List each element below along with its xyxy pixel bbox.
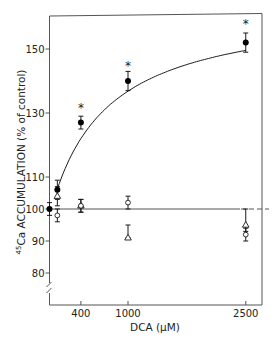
data-markers bbox=[47, 40, 250, 240]
y-tick-label: 100 bbox=[25, 204, 44, 215]
y-tick-label: 110 bbox=[25, 172, 44, 183]
fit-curve-path bbox=[57, 50, 245, 189]
y-axis-title: 45Ca ACCUMULATION (% of control) bbox=[15, 70, 27, 255]
significance-asterisks: *** bbox=[78, 17, 249, 114]
filled-circle-marker bbox=[125, 78, 131, 84]
y-axis-ticks: 8090100110130150 bbox=[25, 44, 49, 279]
significance-asterisk: * bbox=[78, 101, 84, 115]
filled-circle-marker bbox=[243, 40, 249, 46]
y-tick-label: 90 bbox=[32, 236, 45, 247]
significance-asterisk: * bbox=[243, 17, 249, 31]
x-tick-label: 1000 bbox=[115, 308, 140, 319]
open-triangle-marker bbox=[242, 222, 249, 228]
dose-response-chart: 8090100110130150 40010002500 *** DCA (µM… bbox=[0, 0, 275, 342]
plot-frame bbox=[47, 14, 263, 306]
open-circle-marker bbox=[126, 200, 131, 205]
y-axis-title-main: Ca ACCUMULATION (% of control) bbox=[15, 70, 27, 246]
significance-asterisk: * bbox=[125, 59, 131, 73]
top-frame-line bbox=[50, 14, 263, 17]
axis-break-mark bbox=[47, 288, 52, 293]
y-tick-label: 80 bbox=[32, 268, 45, 279]
open-circle-marker bbox=[79, 203, 84, 208]
error-bars bbox=[47, 33, 248, 241]
y-tick-label: 130 bbox=[25, 108, 44, 119]
x-axis-title: DCA (µM) bbox=[130, 321, 180, 333]
filled-circle-marker bbox=[78, 120, 84, 126]
y-tick-label: 150 bbox=[25, 44, 44, 55]
open-triangle-marker bbox=[125, 234, 132, 240]
x-axis-ticks: 40010002500 bbox=[71, 301, 258, 319]
open-circle-marker bbox=[243, 232, 248, 237]
open-triangle-marker bbox=[54, 193, 61, 199]
fit-curve bbox=[57, 50, 245, 189]
x-tick-label: 400 bbox=[71, 308, 90, 319]
y-axis-title-superscript: 45 bbox=[15, 246, 23, 255]
open-circle-marker bbox=[55, 213, 60, 218]
x-tick-label: 2500 bbox=[233, 308, 258, 319]
filled-circle-marker bbox=[47, 206, 53, 212]
